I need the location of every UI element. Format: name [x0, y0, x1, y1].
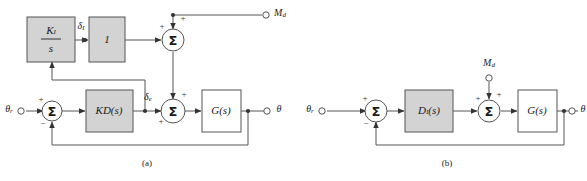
output-junction-dot-b [562, 109, 566, 113]
disturbance-input-port[interactable] [263, 12, 269, 18]
input-summer-sign-plus-b: + [362, 93, 367, 103]
disturbance-input-label: Md [273, 7, 286, 19]
kd-block-label: KD(s) [95, 104, 123, 117]
unity-input-dot [83, 38, 87, 42]
disturbance-summer-sign-top-b: + [496, 89, 501, 99]
input-summer-sign-plus: + [38, 94, 43, 104]
disturbance-input-label-b: Md [482, 57, 495, 69]
reference-input-port[interactable] [18, 108, 24, 114]
reference-input-port-b[interactable] [319, 108, 325, 114]
plant-block-label-b: G(s) [527, 104, 547, 117]
md-junction-dot [171, 13, 175, 17]
unity-block-label: 1 [104, 33, 110, 45]
input-summer-sign-minus-b: − [363, 118, 368, 128]
integral-signal-label: δI [78, 20, 86, 32]
input-summer-symbol: Σ [48, 104, 57, 119]
input-summer-symbol-b: Σ [372, 104, 381, 119]
disturbance-summer-sign-left-b: + [475, 93, 480, 103]
block-diagram-figure: KI s 1 KD(s) G(s) Σ + + Σ + − Σ + + θr [0, 0, 587, 181]
compensator-block-label: DI(s) [417, 104, 440, 117]
plant-block-label: G(s) [211, 104, 231, 117]
figure-root: KI s 1 KD(s) G(s) Σ + + Σ + − Σ + + θr [0, 0, 587, 181]
panel-a-caption: (a) [142, 158, 152, 168]
output-port[interactable] [264, 108, 270, 114]
output-port-b[interactable] [569, 108, 575, 114]
output-label-b: θ [581, 103, 586, 114]
panel-a: KI s 1 KD(s) G(s) Σ + + Σ + − Σ + + θr [5, 7, 286, 168]
reference-input-label-b: θr [306, 103, 314, 115]
error-signal-label: δe [144, 91, 152, 103]
integral-gain-denominator: s [49, 42, 53, 54]
upper-summer-symbol: Σ [169, 33, 178, 48]
deltae-junction-dot [143, 109, 147, 113]
output-junction-dot [246, 109, 250, 113]
input-summer-sign-minus: − [40, 118, 45, 128]
upper-summer-sign-top: + [180, 13, 185, 23]
lower-summer-sign-top: + [181, 89, 186, 99]
panel-b-caption: (b) [442, 158, 453, 168]
lower-summer-sign-left: + [158, 116, 163, 126]
reference-input-label: θr [5, 103, 13, 115]
output-label: θ [277, 103, 282, 114]
disturbance-input-port-b[interactable] [486, 75, 492, 81]
panel-b: DI(s) G(s) Σ + − Σ + + θr Md θ (b) [306, 57, 585, 168]
upper-summer-sign-left: + [159, 21, 164, 31]
lower-summer-symbol: Σ [169, 104, 178, 119]
disturbance-summer-symbol-b: Σ [485, 104, 494, 119]
wire-md-to-upper-summer [173, 15, 262, 29]
